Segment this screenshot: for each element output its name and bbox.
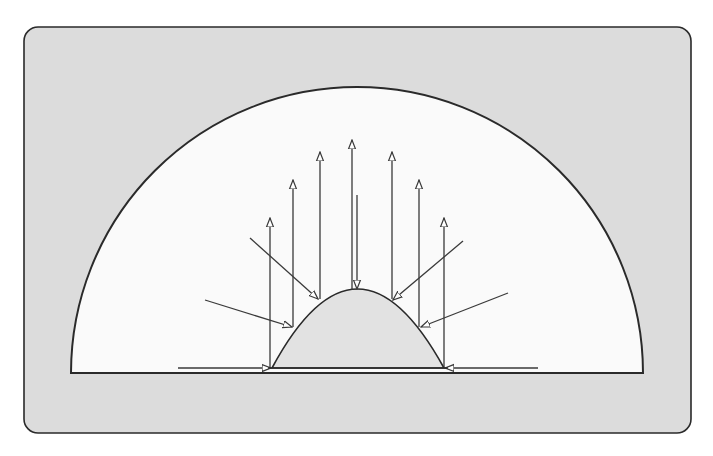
- diagram-stage: Radiation from a dome-shaped source insi…: [0, 0, 713, 456]
- diagram-canvas: [0, 0, 713, 456]
